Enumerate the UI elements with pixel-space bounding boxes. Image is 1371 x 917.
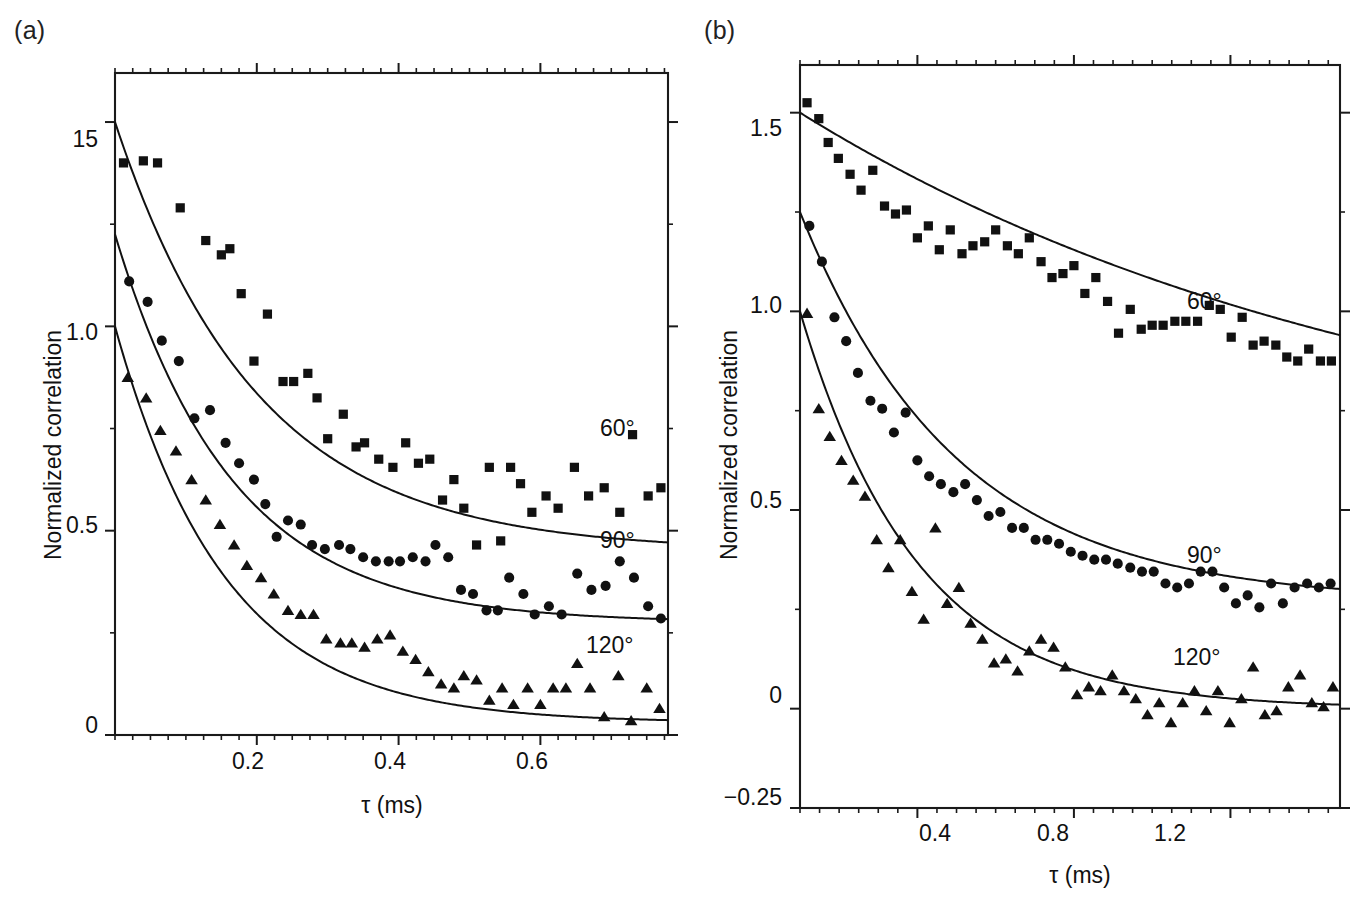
data-point-square	[1148, 321, 1157, 330]
data-point-triangle	[906, 586, 919, 596]
data-point-circle	[1125, 563, 1135, 573]
data-point-circle	[995, 507, 1005, 517]
data-point-square	[1058, 269, 1067, 278]
data-point-square	[360, 438, 369, 447]
data-point-triangle	[988, 657, 1001, 667]
data-point-square	[449, 475, 458, 484]
data-point-triangle	[870, 534, 883, 544]
data-point-circle	[544, 601, 554, 611]
data-point-triangle	[1212, 685, 1225, 695]
data-point-square	[1159, 321, 1168, 330]
data-point-circle	[1042, 535, 1052, 545]
data-point-circle	[924, 471, 934, 481]
data-point-square	[414, 459, 423, 468]
data-point-square	[438, 495, 447, 504]
data-point-triangle	[1035, 633, 1048, 643]
data-point-triangle	[859, 490, 872, 500]
data-point-triangle	[122, 372, 135, 382]
data-point-circle	[1031, 535, 1041, 545]
data-point-square	[237, 289, 246, 298]
data-point-square	[278, 377, 287, 386]
data-point-square	[401, 438, 410, 447]
data-point-circle	[817, 257, 827, 267]
data-point-triangle	[470, 674, 483, 684]
data-point-square	[980, 237, 989, 246]
data-point-square	[1137, 325, 1146, 334]
data-point-triangle	[1071, 689, 1084, 699]
data-point-square	[845, 170, 854, 179]
data-point-square	[1069, 261, 1078, 270]
data-point-square	[1126, 305, 1135, 314]
data-point-square	[1271, 341, 1280, 350]
data-point-circle	[1019, 523, 1029, 533]
data-point-circle	[518, 589, 528, 599]
data-point-square	[891, 209, 900, 218]
data-point-square	[1025, 233, 1034, 242]
panel-b-plot-area	[690, 0, 1371, 917]
data-point-square	[570, 463, 579, 472]
panel-a: (a) Normalized correlation τ (ms) 0 0.5 …	[0, 0, 690, 917]
data-point-triangle	[448, 682, 461, 692]
data-point-circle	[345, 544, 355, 554]
data-point-triangle	[1153, 697, 1166, 707]
data-point-triangle	[640, 682, 653, 692]
data-point-triangle	[521, 682, 534, 692]
data-point-circle	[1278, 598, 1288, 608]
series-120deg	[122, 372, 666, 726]
data-point-square	[303, 369, 312, 378]
fit-curve-60deg	[115, 122, 668, 542]
data-point-triangle	[346, 637, 359, 647]
data-point-triangle	[571, 658, 584, 668]
data-point-triangle	[268, 588, 281, 598]
data-point-triangle	[255, 572, 268, 582]
data-point-circle	[1266, 578, 1276, 588]
data-point-square	[957, 249, 966, 258]
data-point-triangle	[241, 560, 254, 570]
series-90deg	[124, 276, 666, 623]
data-point-square	[1036, 257, 1045, 266]
data-point-circle	[234, 458, 244, 468]
data-point-circle	[395, 556, 405, 566]
data-point-square	[1282, 352, 1291, 361]
data-point-circle	[1077, 551, 1087, 561]
data-point-square	[1259, 337, 1268, 346]
data-point-triangle	[1106, 669, 1119, 679]
data-point-triangle	[154, 425, 167, 435]
data-point-circle	[841, 336, 851, 346]
data-point-square	[880, 201, 889, 210]
data-point-circle	[283, 515, 293, 525]
data-point-triangle	[199, 494, 212, 504]
data-point-square	[1014, 249, 1023, 258]
data-point-square	[485, 463, 494, 472]
data-point-triangle	[409, 654, 422, 664]
data-point-square	[946, 225, 955, 234]
data-point-triangle	[1129, 693, 1142, 703]
data-point-square	[225, 244, 234, 253]
data-point-triangle	[653, 703, 666, 713]
data-point-circle	[221, 438, 231, 448]
data-point-circle	[481, 605, 491, 615]
data-point-square	[802, 98, 811, 107]
data-point-square	[472, 540, 481, 549]
data-point-square	[1205, 301, 1214, 310]
figure-root: (a) Normalized correlation τ (ms) 0 0.5 …	[0, 0, 1371, 917]
data-point-circle	[984, 511, 994, 521]
data-point-triangle	[458, 670, 471, 680]
panel-a-plot-area	[0, 0, 690, 917]
data-point-circle	[260, 499, 270, 509]
data-point-triangle	[1327, 681, 1340, 691]
data-point-square	[615, 508, 624, 517]
data-point-square	[323, 434, 332, 443]
data-point-circle	[960, 479, 970, 489]
series-60deg	[802, 98, 1336, 365]
data-point-circle	[307, 540, 317, 550]
data-point-triangle	[1282, 681, 1295, 691]
data-point-circle	[1184, 578, 1194, 588]
data-point-triangle	[1188, 685, 1201, 695]
data-point-circle	[1160, 578, 1170, 588]
data-point-triangle	[1294, 669, 1307, 679]
data-point-circle	[1314, 582, 1324, 592]
data-point-triangle	[835, 455, 848, 465]
data-point-triangle	[1306, 697, 1319, 707]
data-point-square	[1170, 317, 1179, 326]
